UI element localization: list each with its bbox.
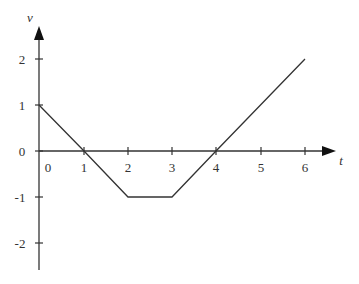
y-tick-label: 2 xyxy=(19,52,26,67)
velocity-time-chart: 2 1 0 -1 -2 0 1 2 3 4 5 6 v t xyxy=(0,0,359,284)
x-axis-arrow-icon xyxy=(322,146,336,156)
y-tick-label: 1 xyxy=(19,98,26,113)
y-tick-label: -2 xyxy=(15,236,26,251)
x-tick-label: 1 xyxy=(81,160,88,175)
y-tick-label: 0 xyxy=(19,144,26,159)
y-axis-label: v xyxy=(27,10,33,25)
y-tick-label: -1 xyxy=(15,190,26,205)
x-tick-label: 5 xyxy=(258,160,265,175)
x-tick-label: 3 xyxy=(169,160,176,175)
x-tick-label: 6 xyxy=(302,160,309,175)
velocity-line xyxy=(39,59,305,197)
x-tick-label: 0 xyxy=(45,160,52,175)
x-axis-label: t xyxy=(339,153,343,168)
x-tick-label: 2 xyxy=(125,160,132,175)
y-axis-arrow-icon xyxy=(34,26,44,40)
x-tick-label: 4 xyxy=(213,160,220,175)
